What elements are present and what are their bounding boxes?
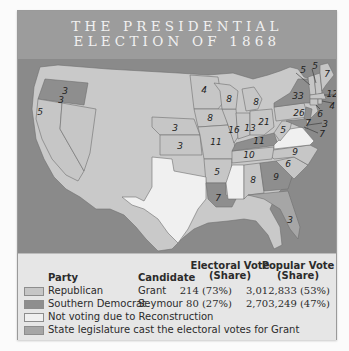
header-popular-vote: Popular Vote (Share) — [260, 261, 336, 281]
header-party: Party — [48, 273, 78, 283]
label-iowa: 8 — [207, 113, 213, 123]
electoral-vote: 214 (73%) — [180, 285, 232, 297]
results-legend: Party Candidate Electoral Vote (Share) P… — [18, 253, 336, 340]
label-massachusetts: 12 — [327, 89, 336, 99]
popular-vote: 2,703,249 (47%) — [246, 298, 330, 310]
label-florida: 3 — [287, 215, 293, 225]
label-nebraska: 3 — [172, 123, 178, 133]
label-west-virginia: 5 — [280, 125, 286, 135]
state-rhode-island — [318, 99, 322, 104]
state-connecticut — [310, 99, 318, 105]
label-michigan: 8 — [253, 97, 259, 107]
label-alabama: 8 — [250, 175, 256, 185]
legend-row-southern-democrat: Southern Democrat Seymour 80 (27%) 2,703… — [18, 298, 336, 310]
label-new-hampshire: 5 — [312, 61, 318, 71]
popular-vote: 3,012,833 (53%) — [246, 285, 330, 297]
label-indiana: 13 — [244, 123, 256, 133]
label-south-carolina: 6 — [285, 159, 291, 169]
label-illinois: 16 — [228, 125, 240, 135]
southern-democrat-swatch — [24, 300, 44, 309]
label-new-jersey: 7 — [305, 118, 311, 128]
title-line-2: ELECTION OF 1868 — [18, 34, 336, 49]
label-north-carolina: 9 — [292, 147, 298, 157]
header-popular-line2: (Share) — [260, 271, 336, 281]
legend-row-legislature: State legislature cast the electoral vot… — [18, 324, 336, 336]
legend-row-republican: Republican Grant 214 (73%) 3,012,833 (53… — [18, 285, 336, 297]
republican-swatch — [24, 287, 44, 296]
label-ohio: 21 — [258, 117, 269, 127]
electoral-vote: 80 (27%) — [186, 298, 232, 310]
label-louisiana: 7 — [215, 193, 221, 203]
legend-row-not-voting: Not voting due to Reconstruction — [18, 311, 336, 323]
label-kansas: 3 — [177, 141, 183, 151]
candidate-name: Grant — [138, 285, 166, 297]
label-vermont: 5 — [300, 65, 306, 75]
header-electoral-line2: (Share) — [190, 271, 270, 281]
category-label: Not voting due to Reconstruction — [48, 311, 213, 323]
candidate-name: Seymour — [138, 298, 183, 310]
header-electoral-vote: Electoral Vote (Share) — [190, 261, 270, 281]
label-rhode-island: 4 — [329, 101, 335, 111]
label-delaware: 3 — [322, 119, 328, 129]
label-new-york: 33 — [292, 91, 304, 101]
title-line-1: THE PRESIDENTIAL — [18, 19, 336, 34]
label-connecticut: 6 — [317, 109, 323, 119]
category-label: State legislature cast the electoral vot… — [48, 324, 299, 336]
us-map: 3 5 3 3 3 4 8 11 5 7 8 8 16 13 21 11 10 … — [18, 59, 336, 253]
label-kentucky: 11 — [253, 136, 264, 146]
map-svg: 3 5 3 3 3 4 8 11 5 7 8 8 16 13 21 11 10 … — [18, 59, 336, 253]
label-maryland: 7 — [319, 129, 325, 139]
label-minnesota: 4 — [201, 85, 207, 95]
label-pennsylvania: 26 — [293, 108, 305, 118]
party-name: Republican — [48, 285, 103, 297]
label-georgia: 9 — [273, 172, 279, 182]
label-nevada: 3 — [58, 95, 64, 105]
title-bar: THE PRESIDENTIAL ELECTION OF 1868 — [18, 11, 336, 59]
label-wisconsin: 8 — [226, 94, 232, 104]
label-arkansas: 5 — [214, 167, 220, 177]
header-candidate: Candidate — [138, 273, 195, 283]
not-voting-swatch — [24, 313, 44, 322]
legislature-swatch — [24, 326, 44, 335]
label-tennessee: 10 — [243, 150, 255, 160]
label-california: 5 — [37, 107, 43, 117]
party-name: Southern Democrat — [48, 298, 146, 310]
label-missouri: 11 — [210, 137, 221, 147]
election-map-figure: THE PRESIDENTIAL ELECTION OF 1868 — [17, 10, 337, 340]
label-maine: 7 — [324, 69, 330, 79]
